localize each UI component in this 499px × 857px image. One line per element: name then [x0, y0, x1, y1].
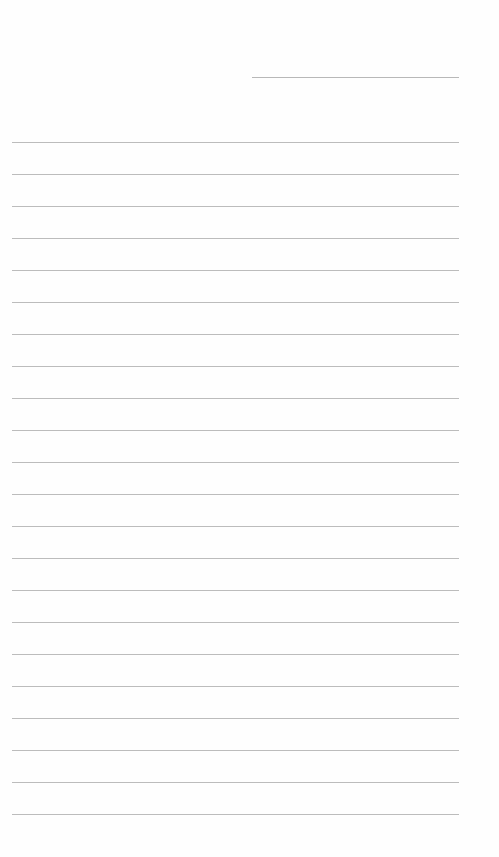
ruled-line	[12, 174, 459, 175]
ruled-line	[12, 782, 459, 783]
ruled-line	[12, 494, 459, 495]
ruled-line	[12, 526, 459, 527]
ruled-line	[12, 206, 459, 207]
ruled-line	[12, 430, 459, 431]
ruled-line	[12, 718, 459, 719]
ruled-lines-container	[12, 0, 459, 857]
ruled-line	[12, 366, 459, 367]
ruled-line	[12, 622, 459, 623]
ruled-line	[12, 814, 459, 815]
ruled-line	[12, 302, 459, 303]
ruled-line	[12, 654, 459, 655]
ruled-line	[12, 238, 459, 239]
ruled-line	[12, 334, 459, 335]
ruled-line	[12, 462, 459, 463]
ruled-line	[12, 686, 459, 687]
ruled-line	[12, 270, 459, 271]
ruled-line	[12, 750, 459, 751]
ruled-line	[12, 398, 459, 399]
ruled-line	[12, 558, 459, 559]
lined-paper-page	[0, 0, 499, 857]
ruled-line	[12, 590, 459, 591]
ruled-line	[12, 142, 459, 143]
